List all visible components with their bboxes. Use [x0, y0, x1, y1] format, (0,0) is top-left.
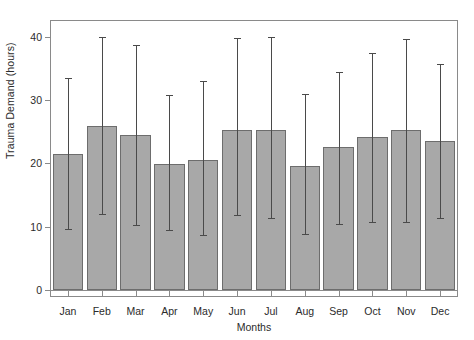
error-bar-stem [339, 72, 340, 224]
y-tick-label: 40 [30, 31, 42, 43]
x-axis-baseline [51, 290, 457, 291]
y-tick [45, 163, 51, 164]
x-tick-label: Nov [397, 305, 416, 317]
error-bar-stem [372, 53, 373, 222]
error-bar-cap-lower [200, 235, 207, 236]
plot-frame: 010203040 JanFebMarAprMayJunJulAugSepOct… [50, 20, 458, 297]
error-bar-cap-lower [336, 224, 343, 225]
x-tick-label: Jun [229, 305, 246, 317]
error-bar-cap-lower [99, 214, 106, 215]
error-bar-cap-upper [437, 64, 444, 65]
error-bar-cap-lower [369, 222, 376, 223]
y-tick-label: 0 [36, 284, 42, 296]
chart-figure: Trauma Demand (hours) 010203040 JanFebMa… [0, 0, 474, 340]
plot-area: 010203040 JanFebMarAprMayJunJulAugSepOct… [51, 21, 457, 296]
x-tick-label: May [193, 305, 213, 317]
x-tick-label: Mar [127, 305, 145, 317]
error-bar-cap-upper [268, 37, 275, 38]
y-tick [45, 37, 51, 38]
error-bar-stem [305, 94, 306, 234]
error-bar-cap-upper [200, 81, 207, 82]
error-bar-cap-lower [166, 230, 173, 231]
error-bar-cap-lower [268, 218, 275, 219]
x-tick-label: Aug [295, 305, 314, 317]
error-bar-stem [271, 37, 272, 218]
error-bar-cap-upper [302, 94, 309, 95]
error-bar-cap-upper [166, 95, 173, 96]
error-bar-cap-lower [437, 218, 444, 219]
y-tick [45, 227, 51, 228]
x-tick-label: Feb [93, 305, 111, 317]
y-tick [45, 100, 51, 101]
x-tick-label: Sep [329, 305, 348, 317]
x-tick-label: Apr [161, 305, 177, 317]
x-tick-label: Dec [431, 305, 450, 317]
error-bar-stem [102, 37, 103, 214]
error-bar-cap-lower [403, 222, 410, 223]
y-tick-label: 30 [30, 94, 42, 106]
x-axis-title: Months [50, 321, 458, 333]
error-bar-cap-lower [133, 225, 140, 226]
error-bar-cap-upper [369, 53, 376, 54]
error-bar-cap-lower [234, 215, 241, 216]
error-bar-stem [440, 64, 441, 218]
error-bar-stem [169, 95, 170, 230]
error-bar-stem [237, 38, 238, 215]
error-bar-cap-lower [65, 229, 72, 230]
y-axis-title: Trauma Demand (hours) [4, 42, 16, 159]
error-bar-cap-upper [403, 39, 410, 40]
error-bar-cap-upper [65, 78, 72, 79]
error-bar-stem [203, 81, 204, 235]
error-bar-cap-upper [234, 38, 241, 39]
error-bar-stem [406, 39, 407, 222]
error-bar-cap-upper [99, 37, 106, 38]
x-tick-label: Oct [364, 305, 380, 317]
y-tick-label: 10 [30, 221, 42, 233]
x-tick-label: Jul [264, 305, 277, 317]
error-bar-cap-lower [302, 234, 309, 235]
x-tick-label: Jan [59, 305, 76, 317]
error-bar-stem [136, 45, 137, 224]
error-bar-cap-upper [133, 45, 140, 46]
error-bar-cap-upper [336, 72, 343, 73]
error-bar-stem [68, 78, 69, 228]
y-tick-label: 20 [30, 157, 42, 169]
